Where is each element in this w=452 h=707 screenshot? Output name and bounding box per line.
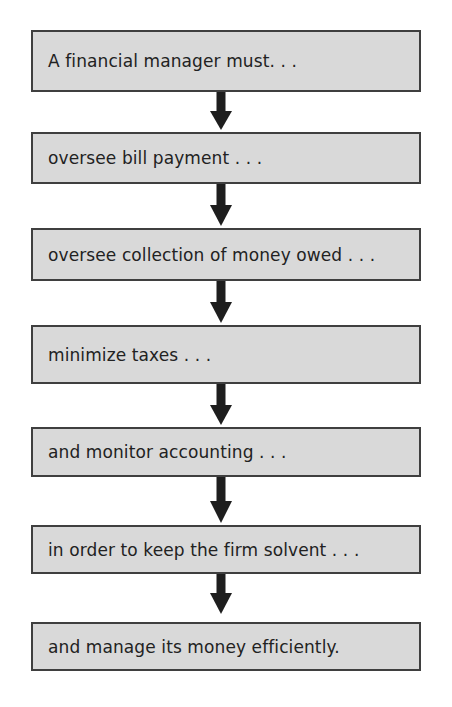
flow-step-1-label: A financial manager must. . . (48, 51, 297, 71)
flow-step-6: in order to keep the firm solvent . . . (31, 525, 421, 574)
flow-step-5: and monitor accounting . . . (31, 427, 421, 477)
down-arrow-icon (210, 384, 232, 427)
flow-step-3: oversee collection of money owed . . . (31, 228, 421, 281)
down-arrow-icon (210, 184, 232, 228)
flow-step-7: and manage its money efficiently. (31, 622, 421, 671)
down-arrow-icon (210, 574, 232, 622)
flow-step-6-label: in order to keep the firm solvent . . . (48, 540, 359, 560)
flow-step-2: oversee bill payment . . . (31, 132, 421, 184)
flow-step-1: A financial manager must. . . (31, 30, 421, 92)
flow-step-4-label: minimize taxes . . . (48, 345, 211, 365)
financial-manager-flowchart: A financial manager must. . . oversee bi… (0, 0, 452, 707)
flow-step-5-label: and monitor accounting . . . (48, 442, 287, 462)
down-arrow-icon (210, 477, 232, 525)
flow-step-3-label: oversee collection of money owed . . . (48, 245, 375, 265)
flow-step-7-label: and manage its money efficiently. (48, 637, 340, 657)
down-arrow-icon (210, 281, 232, 325)
down-arrow-icon (210, 92, 232, 132)
flow-step-4: minimize taxes . . . (31, 325, 421, 384)
flow-step-2-label: oversee bill payment . . . (48, 148, 262, 168)
